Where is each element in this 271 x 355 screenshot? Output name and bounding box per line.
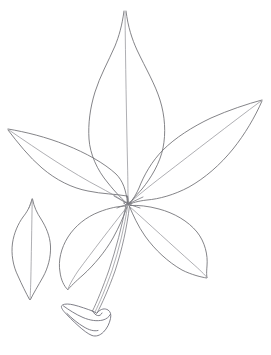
leaf-drawing-canvas xyxy=(0,0,271,355)
drawing-background xyxy=(0,0,271,355)
botanical-illustration-figure xyxy=(0,0,271,355)
